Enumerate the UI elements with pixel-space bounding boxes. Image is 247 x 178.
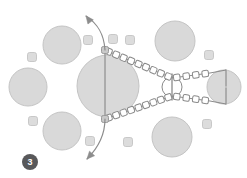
- small-particle: [203, 120, 212, 129]
- vector-diagram: [0, 0, 247, 178]
- lower-right-return-chain: [172, 93, 210, 104]
- small-particle: [86, 137, 95, 146]
- left-vesicle: [9, 68, 47, 106]
- chain-bead: [164, 93, 172, 101]
- small-particle: [84, 36, 93, 45]
- chain-bead: [149, 98, 157, 106]
- step-badge: 3: [22, 154, 38, 170]
- chain-bead: [183, 94, 190, 101]
- chain-bead: [192, 71, 199, 78]
- small-particle: [124, 138, 133, 147]
- upper-right-vesicle: [155, 21, 195, 61]
- diagram-canvas: 3: [0, 0, 247, 178]
- lower-left-vesicle: [43, 112, 81, 150]
- chain-bead: [142, 63, 150, 71]
- chain-bead: [157, 69, 165, 77]
- small-particle: [29, 117, 38, 126]
- chain-bead: [142, 101, 150, 109]
- small-particle: [28, 53, 37, 62]
- chain-bead: [202, 70, 209, 77]
- small-particle: [205, 51, 214, 60]
- chain-bead: [134, 60, 142, 68]
- chain-bead: [134, 103, 142, 111]
- small-particle: [109, 35, 118, 44]
- step-badge-label: 3: [27, 158, 32, 167]
- upper-right-return-chain: [172, 70, 210, 81]
- chain-bead: [173, 74, 180, 81]
- chain-bead: [202, 97, 209, 104]
- chain-bead: [127, 106, 135, 114]
- far-right-vesicle: [207, 70, 241, 104]
- upper-left-vesicle: [43, 26, 81, 64]
- chain-bead: [192, 96, 199, 103]
- chain-bead: [157, 96, 165, 104]
- chain-bead: [173, 93, 180, 100]
- chain-bead: [149, 66, 157, 74]
- chain-bead: [112, 111, 120, 119]
- lower-right-vesicle: [152, 117, 192, 157]
- outward-arrow-up-left-head: [86, 16, 93, 24]
- chain-bead: [120, 109, 128, 117]
- chain-bead: [183, 73, 190, 80]
- small-particle: [126, 36, 135, 45]
